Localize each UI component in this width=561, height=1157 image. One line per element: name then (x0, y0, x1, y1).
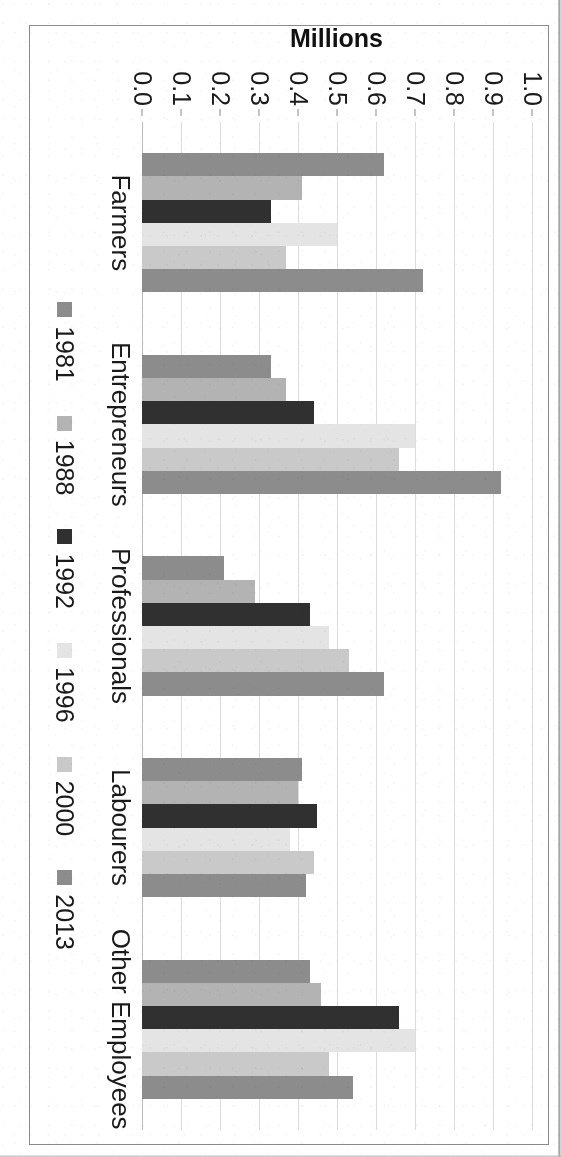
bar-1996[interactable] (142, 1029, 415, 1052)
bar-slot (142, 199, 532, 222)
bar-2000[interactable] (142, 245, 286, 268)
bar-1996[interactable] (142, 424, 415, 447)
y-axis-tick-label: 1.0 (519, 71, 544, 106)
bar-slot (142, 245, 532, 268)
bar-2013[interactable] (142, 269, 423, 292)
scanned-page: Millions 1.00.90.80.70.60.50.40.30.20.10… (0, 0, 561, 1157)
bar-1988[interactable] (142, 176, 302, 199)
legend-swatch-icon (57, 302, 72, 317)
y-axis-tick-mark (180, 109, 181, 116)
bar-slot (142, 758, 532, 781)
bar-slot (142, 269, 532, 292)
bar-slot (142, 602, 532, 625)
legend-item-1988[interactable]: 1988 (50, 415, 79, 495)
legend-swatch-icon (57, 415, 72, 430)
bar-slot (142, 959, 532, 982)
bar-1981[interactable] (142, 153, 384, 176)
bar-slot (142, 649, 532, 672)
legend-item-2013[interactable]: 2013 (50, 870, 79, 950)
bar-2000[interactable] (142, 649, 349, 672)
bar-group (142, 122, 532, 324)
y-axis-tick-label: 0.1 (168, 71, 193, 106)
bar-slot (142, 556, 532, 579)
legend-item-1981[interactable]: 1981 (50, 302, 79, 382)
bar-1992[interactable] (142, 199, 271, 222)
chart-legend: 198119881992199620002013 (44, 122, 86, 1130)
bar-2013[interactable] (142, 873, 306, 896)
chart-frame: Millions 1.00.90.80.70.60.50.40.30.20.10… (29, 25, 549, 1145)
bar-slot (142, 827, 532, 850)
bar-1996[interactable] (142, 222, 337, 245)
bar-1992[interactable] (142, 804, 318, 827)
bar-slot (142, 176, 532, 199)
y-axis-tick-label: 0.9 (480, 71, 505, 106)
bar-2000[interactable] (142, 447, 399, 470)
bar-2000[interactable] (142, 1052, 329, 1075)
bar-1992[interactable] (142, 602, 310, 625)
y-axis-tick-label: 0.2 (207, 71, 232, 106)
category-label: Professionals (96, 525, 136, 727)
legend-swatch-icon (57, 529, 72, 544)
bar-groups (142, 122, 532, 1130)
y-axis-tick-label: 0.8 (441, 71, 466, 106)
legend-item-2000[interactable]: 2000 (50, 756, 79, 836)
bar-1981[interactable] (142, 959, 310, 982)
bar-slot (142, 470, 532, 493)
y-axis-tick-label: 0.3 (246, 71, 271, 106)
legend-label: 1981 (50, 326, 79, 382)
bar-1996[interactable] (142, 625, 329, 648)
bar-1988[interactable] (142, 378, 286, 401)
bar-slot (142, 401, 532, 424)
y-axis-tick-label: 0.4 (285, 71, 310, 106)
bar-1992[interactable] (142, 1006, 399, 1029)
bar-slot (142, 1029, 532, 1052)
bar-1988[interactable] (142, 781, 298, 804)
bar-1981[interactable] (142, 354, 271, 377)
bar-slot (142, 873, 532, 896)
bar-group (142, 323, 532, 525)
category-label: Labourers (96, 726, 136, 928)
legend-swatch-icon (57, 756, 72, 771)
y-axis-tick-mark (336, 109, 337, 116)
y-axis-tick-mark (492, 109, 493, 116)
y-axis-tick-label: 0.0 (129, 71, 154, 106)
legend-label: 2000 (50, 780, 79, 836)
bar-2013[interactable] (142, 1075, 353, 1098)
y-axis-tick-mark (414, 109, 415, 116)
bar-slot (142, 781, 532, 804)
category-label: Entrepreneurs (96, 323, 136, 525)
caption-stub (543, 637, 559, 1157)
bar-1988[interactable] (142, 982, 321, 1005)
bar-1988[interactable] (142, 579, 255, 602)
legend-swatch-icon (57, 643, 72, 658)
y-axis-tick-label: 0.5 (324, 71, 349, 106)
y-axis-tick-label: 0.6 (363, 71, 388, 106)
bar-2013[interactable] (142, 470, 501, 493)
legend-label: 1988 (50, 439, 79, 495)
bar-slot (142, 804, 532, 827)
legend-label: 1992 (50, 553, 79, 609)
bar-slot (142, 354, 532, 377)
bar-slot (142, 850, 532, 873)
bar-slot (142, 153, 532, 176)
y-axis-tick-mark (297, 109, 298, 116)
y-axis-ticks: 1.00.90.80.70.60.50.40.30.20.10.0 (142, 26, 532, 122)
y-axis-tick-label: 0.7 (402, 71, 427, 106)
bar-slot (142, 424, 532, 447)
bar-1992[interactable] (142, 401, 314, 424)
y-axis-tick-mark (258, 109, 259, 116)
bar-1981[interactable] (142, 758, 302, 781)
bar-slot (142, 1052, 532, 1075)
legend-label: 2013 (50, 894, 79, 950)
bar-slot (142, 579, 532, 602)
bar-slot (142, 447, 532, 470)
legend-item-1996[interactable]: 1996 (50, 643, 79, 723)
plot-area (142, 122, 532, 1130)
bar-2000[interactable] (142, 850, 314, 873)
legend-item-1992[interactable]: 1992 (50, 529, 79, 609)
y-axis-tick-mark (141, 109, 142, 116)
bar-1981[interactable] (142, 556, 224, 579)
bar-2013[interactable] (142, 672, 384, 695)
y-axis-tick-mark (219, 109, 220, 116)
bar-1996[interactable] (142, 827, 290, 850)
